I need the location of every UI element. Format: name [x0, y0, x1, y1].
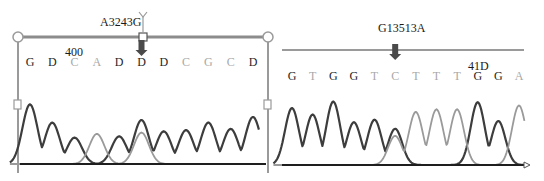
right-base-call: G — [473, 69, 482, 83]
right-peak — [332, 101, 334, 103]
right-base-call: T — [309, 69, 317, 83]
right-base-call: T — [453, 69, 461, 83]
right-base-call: T — [412, 69, 420, 83]
right-arrow-shaft — [392, 44, 398, 55]
left-panel-resize-handle-top-center[interactable] — [139, 33, 147, 41]
left-panel-resize-handle-top-left[interactable] — [13, 32, 23, 42]
left-peak — [141, 132, 143, 134]
left-panel-resize-handle-right[interactable] — [264, 100, 271, 109]
right-base-call: G — [329, 69, 338, 83]
left-peak — [74, 137, 76, 139]
right-peak — [477, 101, 479, 103]
right-mutation-label: G13513A — [378, 21, 426, 35]
left-base-call: C — [71, 55, 79, 69]
right-peak — [415, 111, 417, 113]
left-base-call: D — [249, 55, 258, 69]
right-panel: G13513A 41D GTGGTCTTTGGA — [273, 21, 530, 168]
left-peak — [163, 131, 165, 133]
left-peak — [252, 116, 254, 118]
right-peak — [456, 109, 458, 111]
right-dark-trace — [273, 102, 524, 165]
right-base-call: T — [433, 69, 441, 83]
left-peak — [230, 128, 232, 130]
left-panel: A3243G 400 GDCADDDCGCD — [10, 12, 273, 173]
right-peak — [353, 122, 355, 124]
right-peak — [498, 120, 500, 122]
left-dark-trace — [10, 104, 259, 163]
left-peak — [185, 129, 187, 131]
right-peak — [436, 109, 438, 111]
right-base-call: G — [288, 69, 297, 83]
left-peak — [29, 104, 31, 106]
right-base-call: G — [350, 69, 359, 83]
left-base-call: G — [26, 55, 35, 69]
left-traces — [10, 104, 259, 164]
left-base-call: D — [159, 55, 168, 69]
left-peak — [141, 119, 143, 121]
left-base-calls: GDCADDDCGCD — [26, 55, 258, 69]
left-panel-resize-handle-top-right[interactable] — [263, 32, 273, 42]
right-peak — [518, 105, 520, 107]
right-peak — [312, 114, 314, 116]
right-mutation-arrow-icon — [389, 44, 401, 60]
left-base-call: D — [115, 55, 124, 69]
left-base-call: D — [48, 55, 57, 69]
right-base-call: T — [371, 69, 379, 83]
right-base-call: G — [494, 69, 503, 83]
left-mutation-arrow-icon — [136, 40, 148, 56]
left-base-call: G — [204, 55, 213, 69]
left-peak — [52, 122, 54, 124]
left-mutation-label: A3243G — [100, 15, 142, 29]
left-peak — [96, 133, 98, 135]
left-panel-resize-handle-left[interactable] — [14, 100, 21, 109]
left-peak — [208, 122, 210, 124]
right-peak — [394, 135, 396, 137]
right-base-call: A — [515, 69, 524, 83]
chromatogram-figure: A3243G 400 GDCADDDCGCD G13513A 41D GTGGT… — [0, 0, 544, 181]
right-base-call: C — [391, 69, 399, 83]
left-peak — [118, 136, 120, 138]
left-arrow-shaft — [139, 40, 145, 51]
left-base-call: D — [137, 55, 146, 69]
right-peak — [291, 107, 293, 109]
right-scroll-marker-icon[interactable] — [524, 162, 530, 168]
right-traces — [273, 101, 524, 165]
left-base-call: C — [182, 55, 190, 69]
right-arrow-head — [389, 54, 401, 60]
right-peak — [394, 128, 396, 130]
left-base-call: C — [227, 55, 235, 69]
left-base-call: A — [93, 55, 102, 69]
right-peak — [374, 119, 376, 121]
